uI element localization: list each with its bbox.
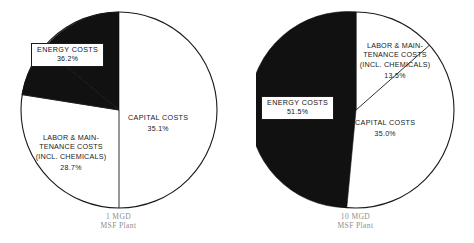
label-labor-line3: (INCL. CHEMICALS) — [349, 60, 441, 69]
chart-1mgd: ENERGY COSTS 36.2% CAPITAL COSTS 35.1% L… — [0, 0, 237, 243]
caption-1mgd-line2: MSF Plant — [101, 221, 137, 230]
label-capital-caption: CAPITAL COSTS — [128, 113, 188, 122]
label-energy-percent: 51.5% — [267, 108, 328, 116]
caption-1mgd: 1 MGD MSF Plant — [101, 212, 137, 231]
label-energy-percent: 36.2% — [37, 55, 98, 63]
label-labor-1mgd: LABOR & MAIN- TENANCE COSTS (INCL. CHEMI… — [25, 133, 117, 173]
label-labor-line1: LABOR & MAIN- — [25, 133, 117, 142]
chart-10mgd: ENERGY COSTS 51.5% LABOR & MAIN- TENANCE… — [237, 0, 474, 243]
caption-10mgd-line1: 10 MGD — [338, 212, 374, 221]
label-labor-line2: TENANCE COSTS — [349, 50, 441, 59]
pie-1mgd — [19, 10, 219, 210]
label-labor-line1: LABOR & MAIN- — [349, 41, 441, 50]
pie-chart-figure: ENERGY COSTS 36.2% CAPITAL COSTS 35.1% L… — [0, 0, 474, 243]
label-energy-1mgd: ENERGY COSTS 36.2% — [31, 43, 104, 67]
label-labor-10mgd: LABOR & MAIN- TENANCE COSTS (INCL. CHEMI… — [349, 41, 441, 81]
label-capital-percent: 35.1% — [128, 125, 188, 134]
label-capital-10mgd: CAPITAL COSTS 35.0% — [355, 118, 415, 139]
label-labor-percent: 28.7% — [25, 164, 117, 173]
label-capital-caption: CAPITAL COSTS — [355, 118, 415, 127]
label-energy-caption: ENERGY COSTS — [37, 46, 98, 54]
label-labor-line2: TENANCE COSTS — [25, 142, 117, 151]
caption-1mgd-line1: 1 MGD — [101, 212, 137, 221]
label-energy-10mgd: ENERGY COSTS 51.5% — [261, 96, 334, 120]
label-energy-caption: ENERGY COSTS — [267, 99, 328, 107]
label-capital-1mgd: CAPITAL COSTS 35.1% — [128, 113, 188, 134]
label-labor-percent: 13.5% — [349, 72, 441, 81]
label-capital-percent: 35.0% — [355, 130, 415, 139]
caption-10mgd: 10 MGD MSF Plant — [338, 212, 374, 231]
pie-1mgd-svg — [19, 10, 219, 210]
caption-10mgd-line2: MSF Plant — [338, 221, 374, 230]
label-labor-line3: (INCL. CHEMICALS) — [25, 152, 117, 161]
